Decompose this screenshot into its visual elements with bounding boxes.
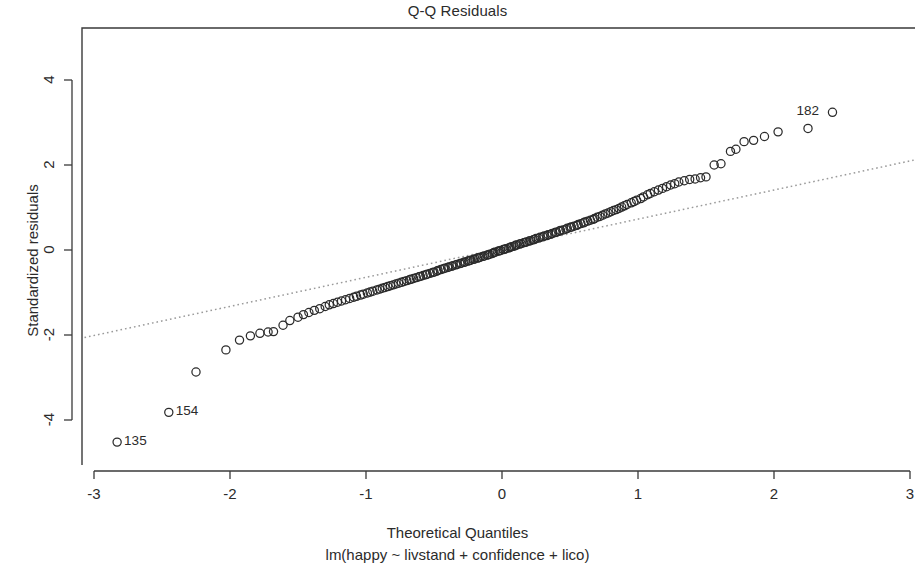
data-point [750, 136, 758, 144]
data-point [774, 128, 782, 136]
y-tick-label: 2 [40, 145, 57, 185]
x-tick-label: -1 [346, 485, 386, 502]
data-point [828, 108, 836, 116]
data-point [165, 408, 173, 416]
data-point [732, 145, 740, 153]
outlier-label: 182 [796, 103, 819, 118]
data-point [726, 147, 734, 155]
x-tick-label: 0 [482, 485, 522, 502]
y-tick-label: -4 [40, 400, 57, 440]
data-point [286, 316, 294, 324]
data-point [702, 173, 710, 181]
x-tick-label: 3 [890, 485, 915, 502]
model-formula-subtitle: lm(happy ~ livstand + confidence + lico) [0, 546, 915, 563]
data-point [192, 368, 200, 376]
data-point [310, 306, 318, 314]
data-point [269, 328, 277, 336]
data-point [256, 329, 264, 337]
outlier-label: 135 [124, 433, 147, 448]
data-point [680, 177, 688, 185]
x-tick-label: 1 [618, 485, 658, 502]
data-point [305, 308, 313, 316]
data-point [740, 138, 748, 146]
qq-plot-figure: Q-Q Residuals Theoretical Quantiles lm(h… [0, 0, 915, 572]
data-point [316, 305, 324, 313]
x-tick-label: -2 [210, 485, 250, 502]
y-tick-label: 4 [40, 60, 57, 100]
data-point [246, 332, 254, 340]
data-point [691, 175, 699, 183]
y-tick-label: -2 [40, 315, 57, 355]
x-axis-label: Theoretical Quantiles [0, 524, 915, 541]
y-axis-label: Standardized residuals [24, 131, 41, 391]
x-tick-label: 2 [754, 485, 794, 502]
data-point [222, 346, 230, 354]
data-points-group [113, 108, 837, 446]
outlier-label: 154 [176, 403, 199, 418]
x-tick-label: -3 [74, 485, 114, 502]
data-point [235, 336, 243, 344]
data-point [113, 438, 121, 446]
data-point [760, 132, 768, 140]
y-tick-label: 0 [40, 230, 57, 270]
data-point [804, 124, 812, 132]
